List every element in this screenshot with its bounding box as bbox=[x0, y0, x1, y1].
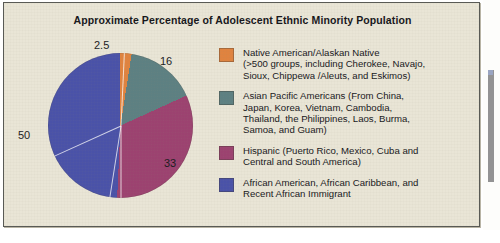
page-title: Approximate Percentage of Adolescent Eth… bbox=[4, 14, 481, 26]
pie-slice-label-hispanic: 33 bbox=[164, 157, 176, 169]
pie-slice-label-african-american: 50 bbox=[18, 129, 30, 141]
adjacent-page-text-marks bbox=[488, 70, 496, 182]
legend-item-label: Asian Pacific Americans (From China, Jap… bbox=[243, 90, 410, 136]
legend-item: African American, African Caribbean, and… bbox=[219, 177, 474, 200]
pie-chart-area: 2.5 16 33 50 bbox=[12, 39, 217, 224]
pie-chart bbox=[48, 53, 193, 198]
legend-item: Hispanic (Puerto Rico, Mexico, Cuba and … bbox=[219, 145, 474, 168]
legend-swatch-icon bbox=[219, 146, 234, 160]
legend-item: Native American/Alaskan Native (>500 gro… bbox=[219, 47, 474, 81]
legend-swatch-icon bbox=[219, 178, 234, 192]
figure-container: Approximate Percentage of Adolescent Eth… bbox=[3, 2, 480, 227]
page-bottom-margin bbox=[0, 230, 500, 243]
legend-item-label: African American, African Caribbean, and… bbox=[243, 177, 418, 200]
chart-legend: Native American/Alaskan Native (>500 gro… bbox=[219, 47, 474, 208]
legend-item: Asian Pacific Americans (From China, Jap… bbox=[219, 90, 474, 136]
pie-slice-separators bbox=[48, 53, 193, 198]
adjacent-page-edge bbox=[483, 0, 500, 243]
legend-item-label: Hispanic (Puerto Rico, Mexico, Cuba and … bbox=[243, 145, 418, 168]
legend-swatch-icon bbox=[219, 91, 234, 105]
pie-slice-label-asian-pacific: 16 bbox=[160, 55, 172, 67]
pie-slice-label-native-american: 2.5 bbox=[94, 39, 109, 51]
legend-swatch-icon bbox=[219, 48, 234, 62]
legend-item-label: Native American/Alaskan Native (>500 gro… bbox=[243, 47, 425, 81]
page-canvas: Approximate Percentage of Adolescent Eth… bbox=[0, 0, 500, 243]
